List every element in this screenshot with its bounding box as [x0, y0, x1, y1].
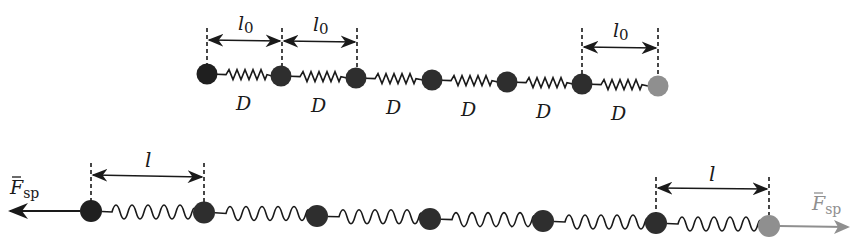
- force-label-right: Fsp: [811, 192, 841, 217]
- ball: [532, 210, 554, 232]
- bottom-length-arrows: [93, 175, 767, 189]
- l-arrow-2: [658, 188, 767, 189]
- spring-label-5: D: [535, 100, 551, 122]
- ball: [271, 66, 292, 87]
- l0-label-3: l0: [613, 19, 629, 44]
- spring-label-6: D: [610, 102, 626, 124]
- l-arrow-1: [93, 175, 202, 177]
- spring-label-3: D: [385, 96, 401, 118]
- bottom-balls: [80, 200, 780, 237]
- ball-end: [758, 215, 780, 237]
- ball: [572, 74, 593, 95]
- spring-3: [365, 74, 423, 84]
- bottom-guides: [91, 163, 769, 215]
- spring-label-4: D: [460, 98, 476, 120]
- ball: [422, 70, 443, 91]
- force-arrow-right: [779, 220, 850, 234]
- spring-6: [667, 217, 762, 231]
- l-label-2: l: [709, 162, 715, 186]
- l0-arrow-1: [209, 40, 280, 41]
- ball: [497, 72, 518, 93]
- ball-end: [648, 76, 669, 97]
- l-label-1: l: [145, 148, 151, 172]
- l0-label-1: l0: [238, 12, 254, 37]
- spring-2: [290, 72, 347, 82]
- spring-2: [215, 207, 310, 221]
- spring-5: [554, 215, 649, 229]
- spring-6: [591, 80, 648, 90]
- ball: [419, 208, 441, 230]
- l0-label-2: l0: [313, 13, 329, 38]
- spring-1: [216, 70, 272, 80]
- spring-chain-diagram: l0 l0 l0 D D D D D D Fsp: [0, 0, 864, 242]
- ball: [193, 202, 215, 224]
- ball: [346, 68, 367, 89]
- spring-label-1: D: [235, 92, 251, 114]
- spring-1: [102, 205, 196, 219]
- l0-arrow-2: [284, 41, 355, 42]
- spring-label-2: D: [310, 94, 326, 116]
- spring-5: [516, 78, 573, 88]
- top-length-arrows: [209, 40, 656, 48]
- ball: [645, 212, 667, 234]
- spring-4: [441, 213, 536, 227]
- spring-4: [441, 76, 498, 86]
- force-label-left: Fsp: [9, 176, 39, 201]
- bottom-chain: Fsp Fsp l l: [9, 148, 850, 237]
- spring-constant-labels: D D D D D D: [235, 92, 626, 124]
- l0-arrow-3: [584, 47, 656, 48]
- spring-3: [328, 210, 423, 224]
- top-chain: l0 l0 l0 D D D D D D: [197, 12, 669, 124]
- ball: [306, 205, 328, 227]
- top-balls: [197, 64, 669, 97]
- ball: [197, 64, 218, 85]
- ball: [80, 200, 102, 222]
